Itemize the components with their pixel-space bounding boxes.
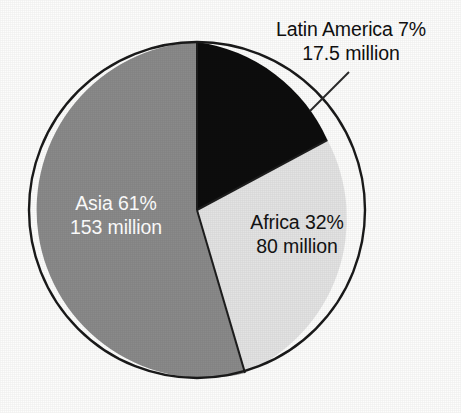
pie-label-asia-percent: Asia 61% — [36, 192, 196, 216]
pie-label-latin-america: Latin America 7% 17.5 million — [248, 18, 454, 66]
pie-label-africa-amount: 80 million — [218, 235, 376, 259]
pie-label-latin-america-amount: 17.5 million — [248, 42, 454, 66]
pie-label-asia-amount: 153 million — [36, 216, 196, 240]
pie-label-africa-percent: Africa 32% — [218, 211, 376, 235]
pie-label-asia: Asia 61% 153 million — [36, 192, 196, 240]
pie-chart-figure: Asia 61% 153 million Africa 32% 80 milli… — [0, 0, 461, 413]
pie-label-latin-america-percent: Latin America 7% — [248, 18, 454, 42]
pie-label-africa: Africa 32% 80 million — [218, 211, 376, 259]
